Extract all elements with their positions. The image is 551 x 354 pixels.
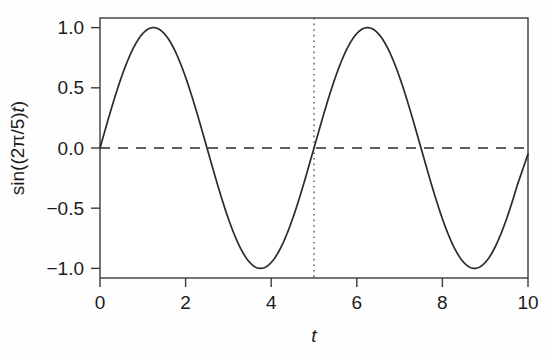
x-tick-label: 2 <box>180 292 191 313</box>
y-tick-label: −0.5 <box>46 198 84 219</box>
y-axis-title-prefix: sin((2π/5) <box>7 112 28 195</box>
y-tick-label: 0.0 <box>58 138 84 159</box>
x-tick-label: 4 <box>266 292 277 313</box>
chart-figure: 1.00.50.0−0.5−1.0 0246810 t sin((2π/5)t) <box>0 0 551 354</box>
x-tick-label: 8 <box>437 292 448 313</box>
x-tick-label: 0 <box>95 292 106 313</box>
sine-wave-plot: 1.00.50.0−0.5−1.0 0246810 t sin((2π/5)t) <box>0 0 551 354</box>
y-tick-label: −1.0 <box>46 258 84 279</box>
x-tick-label: 10 <box>517 292 538 313</box>
y-tick-label: 0.5 <box>58 77 84 98</box>
x-axis-title: t <box>311 325 317 346</box>
y-tick-label: 1.0 <box>58 17 84 38</box>
y-axis-title: sin((2π/5)t) <box>7 101 28 195</box>
x-tick-label: 6 <box>352 292 363 313</box>
y-axis-title-suffix: ) <box>7 101 28 107</box>
